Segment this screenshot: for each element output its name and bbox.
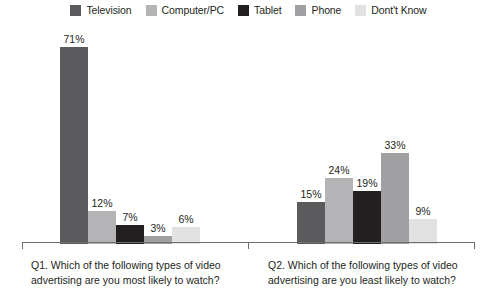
bar-rect [297, 202, 325, 244]
bar-slot-1-2: 19% [353, 20, 381, 244]
bar-slot-0-3: 3% [144, 20, 172, 244]
legend-swatch-phone [295, 5, 306, 16]
bar-group-q2: 15%24%19%33%9% [248, 20, 475, 244]
legend-swatch-dont-know [355, 5, 366, 16]
bar-value-label: 71% [63, 33, 84, 45]
bar-value-label: 19% [356, 177, 377, 189]
x-axis-caption-q1: Q1. Which of the following types of vide… [31, 258, 241, 288]
bar-rect [353, 191, 381, 244]
bar-slot-0-2: 7% [116, 20, 144, 244]
legend-item-1: Computer/PC [146, 5, 225, 16]
bar-slot-0-0: 71% [60, 20, 88, 244]
bar-rect [60, 47, 88, 244]
bar-slot-1-3: 33% [381, 20, 409, 244]
legend-item-0: Television [70, 5, 131, 16]
legend-swatch-computer-pc [146, 5, 157, 16]
bar-value-label: 12% [91, 197, 112, 209]
axis-tick-center-divider [248, 242, 249, 249]
legend-item-2: Tablet [238, 5, 281, 16]
legend-label-4: Dont't Know [371, 5, 426, 16]
bar-value-label: 3% [150, 222, 165, 234]
bar-rect [409, 219, 437, 244]
bar-value-label: 33% [384, 139, 405, 151]
bar-group-q1-bars: 71%12%7%3%6% [60, 20, 200, 244]
bar-rect [381, 153, 409, 244]
bar-slot-0-4: 6% [172, 20, 200, 244]
bar-slot-1-0: 15% [297, 20, 325, 244]
axis-tick-right [474, 242, 475, 249]
chart-legend: TelevisionComputer/PCTabletPhoneDont't K… [0, 0, 497, 20]
bar-value-label: 15% [300, 188, 321, 200]
bar-value-label: 7% [122, 211, 137, 223]
legend-label-3: Phone [311, 5, 341, 16]
axis-tick-left [22, 242, 23, 249]
bar-slot-1-4: 9% [409, 20, 437, 244]
bar-value-label: 6% [178, 213, 193, 225]
legend-label-0: Television [86, 5, 131, 16]
x-axis-caption-q2: Q2. Which of the following types of vide… [268, 258, 480, 288]
bar-slot-1-1: 24% [325, 20, 353, 244]
legend-item-4: Dont't Know [355, 5, 426, 16]
bar-rect [325, 178, 353, 244]
bar-value-label: 9% [415, 205, 430, 217]
bar-group-q2-bars: 15%24%19%33%9% [297, 20, 437, 244]
bar-rect [88, 211, 116, 244]
legend-label-1: Computer/PC [162, 5, 225, 16]
chart-plot-area: 71%12%7%3%6% 15%24%19%33%9% [0, 20, 497, 244]
bar-group-q1: 71%12%7%3%6% [22, 20, 248, 244]
legend-label-2: Tablet [254, 5, 281, 16]
legend-swatch-television [70, 5, 81, 16]
legend-item-3: Phone [295, 5, 341, 16]
bar-slot-0-1: 12% [88, 20, 116, 244]
bar-value-label: 24% [328, 164, 349, 176]
legend-swatch-tablet [238, 5, 249, 16]
